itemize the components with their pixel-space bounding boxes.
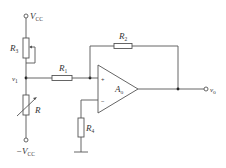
vo-terminal xyxy=(204,87,208,91)
vcc-terminal xyxy=(24,14,28,18)
neg-vcc-terminal xyxy=(24,138,28,142)
r2-label: R2 xyxy=(118,31,128,42)
r3-wiper-arrow-icon xyxy=(29,46,32,49)
vcc-label: VCC xyxy=(30,11,43,22)
r4-resistor xyxy=(78,118,84,137)
r4-label: R4 xyxy=(85,123,95,134)
r1-label: R1 xyxy=(58,63,68,74)
plus-sign: + xyxy=(101,76,105,82)
vo-label: vo xyxy=(210,86,216,95)
r3-resistor xyxy=(23,38,29,58)
neg-vcc-label: −VCC xyxy=(16,146,35,157)
r-label: R xyxy=(34,105,41,115)
v1-label: v1 xyxy=(12,75,18,84)
minus-sign: − xyxy=(101,98,105,104)
r2-resistor xyxy=(114,44,132,49)
r1-resistor xyxy=(52,76,72,81)
output-node xyxy=(177,88,180,91)
r3-label: R3 xyxy=(9,43,19,54)
circuit-diagram: VCC R3 v1 R1 R2 Ao + − vo R R4 −VCC xyxy=(0,0,226,168)
